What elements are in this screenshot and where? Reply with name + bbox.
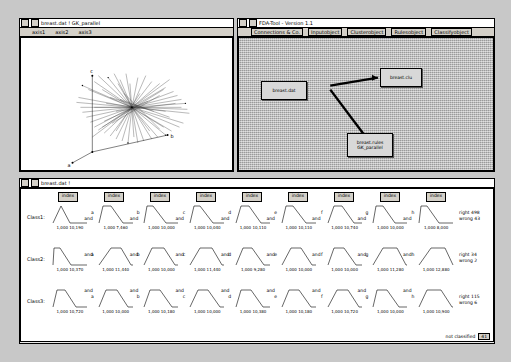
- status-count: 41: [478, 333, 490, 340]
- table-row: Class3: a 1,000 10,720 b 1,000 10,000: [21, 288, 493, 330]
- range-label: 1,000 12,880: [423, 267, 450, 272]
- range-label: 1,000 10,000: [377, 225, 404, 230]
- menu-axis2[interactable]: axis2: [55, 29, 68, 35]
- membership-function-chart: [188, 204, 226, 225]
- membership-cell[interactable]: 1,000 10,900: [413, 288, 459, 314]
- range-label: 1,000 10,110: [240, 225, 267, 230]
- maximize-icon[interactable]: [31, 179, 39, 187]
- index-header-cell[interactable]: index: [229, 192, 275, 202]
- membership-cell[interactable]: d 1,000 10,040: [184, 204, 230, 230]
- membership-cell[interactable]: c 1,000 10,180: [139, 288, 185, 314]
- wrong-count: wrong 2: [459, 258, 493, 264]
- window-gk-parallel[interactable]: breast.dat ! GK_parallel axis1 axis2 axi…: [19, 18, 234, 172]
- membership-cell[interactable]: e 1,000 10,110: [230, 204, 276, 230]
- menubar-fda-tool[interactable]: Connections & Co. Inputobject Clusterobj…: [238, 28, 494, 37]
- status-left-label: not classified: [446, 334, 476, 339]
- membership-cell[interactable]: f 1,000 10,110: [276, 204, 322, 230]
- membership-function-chart: [234, 246, 272, 267]
- gk-plot-canvas[interactable]: c a b: [20, 37, 233, 171]
- window-fda-tool[interactable]: FDA-Tool - Version 1.1 Connections & Co.…: [237, 18, 495, 172]
- membership-cell[interactable]: b 1,000 7,460: [93, 204, 139, 230]
- menu-inputobject[interactable]: Inputobject: [308, 28, 342, 36]
- range-label: 1,000 10,740: [331, 225, 358, 230]
- membership-cell[interactable]: 1,000 8,000: [413, 204, 459, 230]
- membership-cell[interactable]: g 1,000 10,740: [322, 204, 368, 230]
- range-label: 1,000 10,000: [331, 267, 358, 272]
- maximize-icon[interactable]: [31, 19, 39, 27]
- membership-cell[interactable]: g 1,000 10,720: [322, 288, 368, 314]
- membership-cell[interactable]: f 1,000 10,180: [276, 288, 322, 314]
- membership-cell[interactable]: d 1,000 10,000: [184, 288, 230, 314]
- node-input-breast-dat[interactable]: breast.dat: [261, 81, 307, 100]
- titlebar-gk-parallel[interactable]: breast.dat ! GK_parallel: [20, 19, 233, 28]
- node-rules-breast-rules[interactable]: breast.rules GK_parallel: [347, 133, 393, 157]
- index-header-cell[interactable]: index: [413, 192, 459, 202]
- range-label: 1,000 10,190: [57, 225, 84, 230]
- range-label: 1,000 10,180: [285, 309, 312, 314]
- scatter-plot: c a b: [21, 38, 232, 171]
- membership-cell[interactable]: 1,000 12,880: [413, 246, 459, 272]
- index-header-cell[interactable]: index: [91, 192, 137, 202]
- index-label: index: [288, 192, 308, 202]
- membership-cell[interactable]: f 1,000 10,000: [276, 246, 322, 272]
- rule-result: right 34 wrong 2: [459, 246, 493, 264]
- membership-function-chart: [51, 246, 89, 267]
- membership-cell[interactable]: d 1,000 11,440: [184, 246, 230, 272]
- membership-cell[interactable]: g 1,000 10,000: [322, 246, 368, 272]
- menu-clusterobject[interactable]: Clusterobject: [347, 28, 386, 36]
- range-label: 1,000 10,000: [148, 225, 175, 230]
- membership-cell[interactable]: h 1,000 10,000: [367, 204, 413, 230]
- membership-cell[interactable]: e 1,000 10,380: [230, 288, 276, 314]
- membership-function-chart: [326, 246, 364, 267]
- window-breast-rules[interactable]: breast.dat ! index index index index ind…: [19, 178, 495, 344]
- membership-cell[interactable]: a 1,000 10,190: [47, 204, 93, 230]
- index-header-cell[interactable]: index: [367, 192, 413, 202]
- membership-function-chart: [280, 288, 318, 309]
- wrong-count: wrong 43: [459, 216, 493, 222]
- membership-cell[interactable]: b 1,000 10,000: [93, 288, 139, 314]
- range-label: 1,000 10,720: [57, 309, 84, 314]
- membership-function-chart: [417, 246, 455, 267]
- fda-workspace[interactable]: breast.dat breast.clu breast.rules GK_pa…: [238, 37, 494, 171]
- menu-axis1[interactable]: axis1: [32, 29, 45, 35]
- range-label: 1,000 10,000: [102, 309, 129, 314]
- membership-function-chart: [188, 246, 226, 267]
- maximize-icon[interactable]: [249, 19, 257, 27]
- range-label: 1,000 10,900: [423, 309, 450, 314]
- node-cluster-breast-clu[interactable]: breast.clu: [380, 68, 422, 87]
- index-header-cell[interactable]: index: [45, 192, 91, 202]
- index-header-cell[interactable]: index: [275, 192, 321, 202]
- membership-cell[interactable]: a 1,000 10,370: [47, 246, 93, 272]
- membership-function-chart: [188, 288, 226, 309]
- range-label: 1,000 8,000: [424, 225, 448, 230]
- membership-cell[interactable]: a 1,000 10,720: [47, 288, 93, 314]
- membership-function-chart: [280, 246, 318, 267]
- index-label: index: [196, 192, 216, 202]
- membership-cell[interactable]: e 1,000 9,280: [230, 246, 276, 272]
- membership-cell[interactable]: c 1,000 10,000: [139, 204, 185, 230]
- menu-connections[interactable]: Connections & Co.: [251, 28, 303, 36]
- membership-cell[interactable]: b 1,000 11,440: [93, 246, 139, 272]
- titlebar-fda-tool[interactable]: FDA-Tool - Version 1.1: [238, 19, 494, 28]
- minimize-icon[interactable]: [21, 19, 29, 27]
- menu-classifyobject[interactable]: Classifyobject: [431, 28, 472, 36]
- window-title: FDA-Tool - Version 1.1: [259, 20, 493, 26]
- membership-function-chart: [51, 288, 89, 309]
- window-title: breast.dat ! GK_parallel: [41, 20, 232, 26]
- menubar-gk-parallel[interactable]: axis1 axis2 axis3: [20, 28, 233, 37]
- axis-label-b: b: [171, 133, 174, 139]
- range-label: 1,000 10,000: [148, 267, 175, 272]
- titlebar-breast-rules[interactable]: breast.dat !: [20, 179, 494, 188]
- class-label: Class1:: [21, 204, 47, 221]
- minimize-icon[interactable]: [239, 19, 247, 27]
- menu-rulesobject[interactable]: Rulesobject: [391, 28, 426, 36]
- membership-cell[interactable]: h 1,000 11,280: [367, 246, 413, 272]
- membership-cell[interactable]: c 1,000 10,000: [139, 246, 185, 272]
- membership-cell[interactable]: h 1,000 10,000: [367, 288, 413, 314]
- index-header-cell[interactable]: index: [137, 192, 183, 202]
- index-header-cell[interactable]: index: [183, 192, 229, 202]
- menu-axis3[interactable]: axis3: [78, 29, 91, 35]
- index-header-cell[interactable]: index: [321, 192, 367, 202]
- minimize-icon[interactable]: [21, 179, 29, 187]
- membership-function-chart: [280, 204, 318, 225]
